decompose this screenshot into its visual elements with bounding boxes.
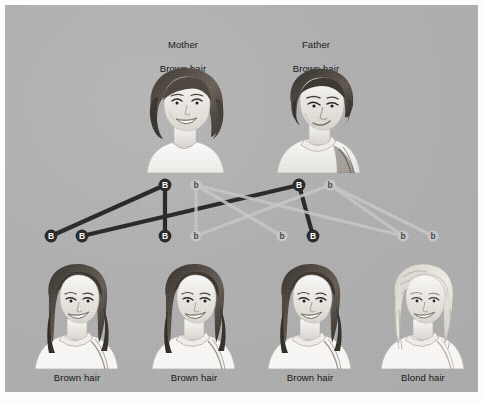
allele-node-label: B: [48, 231, 54, 241]
allele-node-label: B: [310, 231, 316, 241]
allele-node-label: B: [162, 180, 168, 190]
allele-links: [51, 185, 433, 236]
allele-node-B[interactable]: B: [159, 230, 172, 243]
child-4-label: Blond hair: [368, 372, 478, 384]
allele-node-B[interactable]: B: [45, 230, 58, 243]
allele-node-label: b: [327, 180, 332, 190]
allele-node-B[interactable]: B: [159, 179, 172, 192]
allele-node-B[interactable]: B: [76, 230, 89, 243]
allele-node-b[interactable]: b: [397, 230, 408, 241]
allele-node-b[interactable]: b: [427, 230, 438, 241]
allele-node-label: b: [193, 180, 198, 190]
child-4-portrait: [373, 257, 473, 369]
figure-frame: Mother Brown hair Father Brown hair: [5, 5, 478, 392]
child-3-label: Brown hair: [255, 372, 365, 384]
allele-node-label: b: [279, 231, 284, 241]
child-1-label: Brown hair: [22, 372, 132, 384]
allele-node-label: b: [400, 231, 405, 241]
allele-node-B[interactable]: B: [293, 179, 306, 192]
child-2-portrait: [144, 257, 244, 369]
allele-node-b[interactable]: b: [190, 230, 201, 241]
allele-node-B[interactable]: B: [307, 230, 320, 243]
child-1-portrait: [27, 257, 127, 369]
allele-node-label: b: [193, 231, 198, 241]
allele-node-label: B: [79, 231, 85, 241]
allele-node-label: B: [162, 231, 168, 241]
child-3-portrait: [260, 257, 360, 369]
allele-node-label: B: [296, 180, 302, 190]
allele-node-b[interactable]: b: [324, 179, 335, 190]
allele-node-label: b: [430, 231, 435, 241]
child-2-label: Brown hair: [139, 372, 249, 384]
allele-link: [330, 185, 433, 236]
allele-node-b[interactable]: b: [276, 230, 287, 241]
allele-node-b[interactable]: b: [190, 179, 201, 190]
